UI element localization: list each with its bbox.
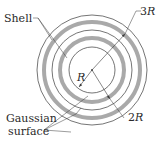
diagram-canvas: Shell Gaussian surface R 3R 2R — [0, 0, 157, 141]
radius-3r-leader — [125, 11, 141, 34]
gauss-shells-figure: Shell Gaussian surface R 3R 2R — [0, 0, 157, 141]
radius-r-arrowhead — [79, 84, 82, 87]
shell-label: Shell — [4, 12, 33, 25]
radius-2r-var: R — [134, 111, 143, 124]
radius-3r-label: 3R — [140, 5, 155, 18]
radius-3r-var: R — [146, 5, 155, 18]
gaussian-label-line2: surface — [8, 125, 49, 138]
gaussian-label-line1: Gaussian — [6, 112, 57, 125]
radius-r-label: R — [76, 71, 85, 84]
radius-3r-coef: 3 — [140, 5, 147, 18]
radius-2r-label: 2R — [128, 111, 143, 124]
radius-2r-line — [92, 70, 110, 99]
radius-2r-coef: 2 — [128, 111, 135, 124]
shell-leader-line-2 — [38, 18, 52, 40]
